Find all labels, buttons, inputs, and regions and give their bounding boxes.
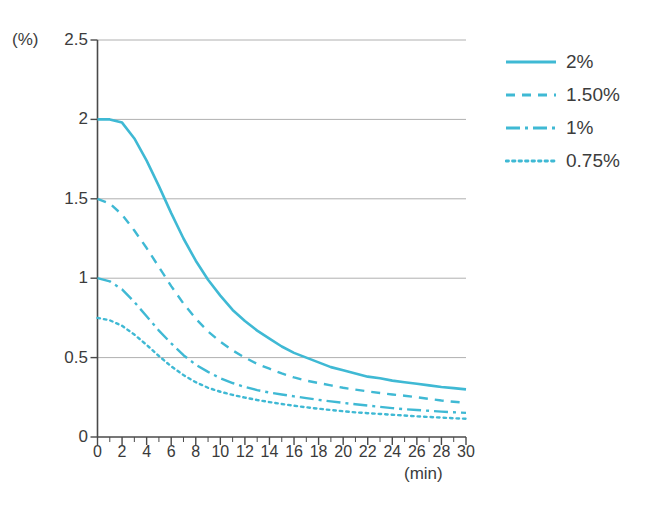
legend-item[interactable]: 1% (505, 111, 650, 144)
legend-item-label: 1% (566, 117, 593, 139)
chart-figure: (%) (min) 00.511.522.5 02468101214161820… (0, 0, 655, 513)
y-tick-label-text: 1 (40, 268, 88, 288)
legend-item[interactable]: 0.75% (505, 144, 650, 177)
series-line-075 (98, 318, 467, 419)
legend-line-swatch-dashed (505, 88, 557, 102)
x-tick-label: 30 (446, 443, 486, 461)
legend-item-label: 0.75% (566, 150, 620, 172)
y-tick-label-text: 2 (40, 109, 88, 129)
legend-item[interactable]: 2% (505, 45, 650, 78)
y-tick-label-text: 0.5 (40, 348, 88, 368)
series-line-2 (98, 119, 467, 389)
legend-item-label: 1.50% (566, 84, 620, 106)
legend-line-swatch-dotted (505, 154, 557, 168)
x-tick-label-text: 30 (446, 443, 486, 461)
y-tick-label-text: 2.5 (40, 30, 88, 50)
legend-line-swatch-dashdot (505, 121, 557, 135)
legend-line-swatch-solid (505, 55, 557, 69)
y-tick-label-text: 1.5 (40, 189, 88, 209)
legend-item[interactable]: 1.50% (505, 78, 650, 111)
chart-legend: 2%1.50%1%0.75% (505, 45, 650, 177)
legend-item-label: 2% (566, 51, 593, 73)
series-line-150 (98, 199, 467, 403)
